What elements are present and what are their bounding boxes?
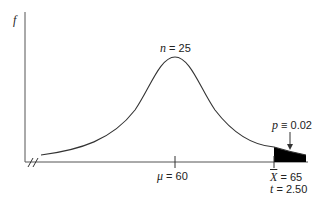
curve-label: n = 25 xyxy=(160,42,191,54)
normal-curve xyxy=(41,57,306,155)
y-axis-label: f xyxy=(13,14,16,26)
t-label: t = 2.50 xyxy=(270,183,307,195)
mean-label: μ = 60 xyxy=(157,170,188,182)
arrow-head-icon xyxy=(287,144,293,150)
p-label: p ≡ 0.02 xyxy=(272,119,312,131)
xbar-label: X = 65 xyxy=(270,171,302,183)
